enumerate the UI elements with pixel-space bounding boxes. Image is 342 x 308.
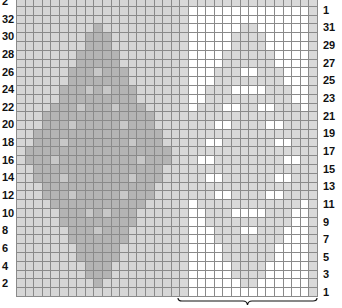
chart-cell bbox=[26, 209, 34, 217]
chart-cell bbox=[155, 33, 163, 41]
chart-cell bbox=[232, 156, 240, 164]
chart-cell bbox=[189, 191, 197, 199]
chart-cell bbox=[292, 51, 300, 59]
chart-cell bbox=[284, 183, 292, 191]
row-number-label: 17 bbox=[323, 146, 335, 157]
chart-cell bbox=[189, 244, 197, 252]
chart-cell bbox=[69, 51, 77, 59]
chart-cell bbox=[284, 77, 292, 85]
chart-cell bbox=[34, 51, 42, 59]
row-number-label: 21 bbox=[323, 111, 335, 122]
chart-cell bbox=[17, 104, 25, 112]
chart-cell bbox=[94, 121, 102, 129]
chart-cell bbox=[77, 104, 85, 112]
chart-cell bbox=[60, 121, 68, 129]
chart-cell bbox=[120, 24, 128, 32]
chart-cell bbox=[223, 227, 231, 235]
chart-cell bbox=[103, 227, 111, 235]
chart-cell bbox=[301, 130, 309, 138]
chart-cell bbox=[51, 262, 59, 270]
chart-cell bbox=[43, 271, 51, 279]
chart-cell bbox=[120, 183, 128, 191]
chart-cell bbox=[284, 24, 292, 32]
chart-cell bbox=[172, 218, 180, 226]
chart-cell bbox=[172, 191, 180, 199]
chart-cell bbox=[301, 191, 309, 199]
chart-cell bbox=[198, 227, 206, 235]
chart-cell bbox=[241, 191, 249, 199]
chart-cell bbox=[241, 165, 249, 173]
chart-cell bbox=[137, 244, 145, 252]
chart-cell bbox=[26, 183, 34, 191]
chart-cell bbox=[223, 235, 231, 243]
chart-cell bbox=[129, 227, 137, 235]
chart-cell bbox=[77, 147, 85, 155]
chart-cell bbox=[309, 235, 317, 243]
chart-cell bbox=[258, 288, 266, 296]
row-number-label: 2 bbox=[2, 278, 16, 289]
chart-cell bbox=[284, 235, 292, 243]
chart-cell bbox=[86, 279, 94, 287]
chart-cell bbox=[258, 253, 266, 261]
chart-cell bbox=[146, 7, 154, 15]
chart-cell bbox=[17, 77, 25, 85]
chart-cell bbox=[301, 77, 309, 85]
chart-cell bbox=[120, 253, 128, 261]
chart-cell bbox=[155, 156, 163, 164]
chart-cell bbox=[51, 86, 59, 94]
chart-cell bbox=[172, 235, 180, 243]
chart-cell bbox=[26, 7, 34, 15]
chart-cell bbox=[232, 104, 240, 112]
chart-cell bbox=[223, 0, 231, 6]
chart-cell bbox=[146, 218, 154, 226]
chart-cell bbox=[34, 279, 42, 287]
chart-cell bbox=[94, 42, 102, 50]
chart-cell bbox=[206, 51, 214, 59]
chart-cell bbox=[120, 130, 128, 138]
chart-cell bbox=[163, 104, 171, 112]
chart-cell bbox=[112, 7, 120, 15]
chart-cell bbox=[309, 42, 317, 50]
chart-cell bbox=[284, 279, 292, 287]
chart-cell bbox=[232, 68, 240, 76]
chart-cell bbox=[60, 253, 68, 261]
chart-cell bbox=[103, 288, 111, 296]
chart-cell bbox=[215, 191, 223, 199]
chart-cell bbox=[206, 156, 214, 164]
chart-cell bbox=[232, 121, 240, 129]
chart-cell bbox=[172, 77, 180, 85]
chart-cell bbox=[258, 191, 266, 199]
chart-cell bbox=[129, 112, 137, 120]
chart-cell bbox=[103, 174, 111, 182]
chart-cell bbox=[26, 33, 34, 41]
chart-cell bbox=[249, 200, 257, 208]
chart-cell bbox=[241, 139, 249, 147]
chart-cell bbox=[34, 227, 42, 235]
chart-cell bbox=[309, 86, 317, 94]
chart-cell bbox=[198, 68, 206, 76]
chart-cell bbox=[172, 42, 180, 50]
chart-cell bbox=[120, 209, 128, 217]
chart-cell bbox=[189, 174, 197, 182]
chart-cell bbox=[206, 42, 214, 50]
chart-cell bbox=[17, 42, 25, 50]
chart-cell bbox=[137, 7, 145, 15]
chart-cell bbox=[189, 165, 197, 173]
chart-cell bbox=[77, 68, 85, 76]
chart-cell bbox=[94, 200, 102, 208]
chart-cell bbox=[275, 121, 283, 129]
chart-cell bbox=[172, 271, 180, 279]
chart-cell bbox=[301, 112, 309, 120]
chart-cell bbox=[198, 209, 206, 217]
chart-cell bbox=[129, 209, 137, 217]
chart-cell bbox=[129, 218, 137, 226]
chart-cell bbox=[309, 0, 317, 6]
chart-cell bbox=[129, 42, 137, 50]
chart-cell bbox=[120, 16, 128, 24]
chart-cell bbox=[146, 288, 154, 296]
chart-cell bbox=[129, 68, 137, 76]
chart-cell bbox=[292, 271, 300, 279]
chart-cell bbox=[60, 7, 68, 15]
chart-cell bbox=[163, 51, 171, 59]
chart-cell bbox=[86, 0, 94, 6]
